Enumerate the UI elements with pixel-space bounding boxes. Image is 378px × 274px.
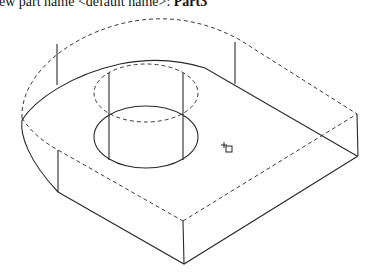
bottom-left-hidden-edge (22, 118, 183, 221)
bottom-right-hidden-edge (183, 114, 357, 221)
front-bottom-edge (58, 156, 358, 264)
wireframe-model (0, 0, 378, 274)
hole-top-ellipse (94, 106, 198, 168)
hole-bottom-ellipse (94, 64, 198, 122)
cad-viewport[interactable]: ew part name <default name>: Part3 (0, 0, 378, 274)
outer-back-arc (22, 19, 357, 118)
front-corner-edge (183, 221, 184, 264)
right-corner-edge (357, 114, 358, 156)
top-face-arc (22, 61, 357, 156)
pick-box-cursor-icon (221, 142, 232, 152)
left-side-curve (22, 120, 58, 192)
visible-lines (22, 42, 358, 264)
